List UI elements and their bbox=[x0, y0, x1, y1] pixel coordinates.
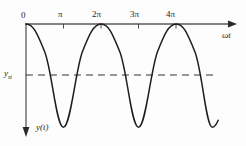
static-deflection-subscript: st bbox=[8, 74, 12, 80]
vibration-response-figure: 0 π 2π 3π 4π ωt yst y(t) bbox=[0, 0, 246, 146]
y-axis-arrowhead bbox=[23, 127, 30, 137]
static-deflection-label: yst bbox=[4, 69, 12, 80]
x-axis-label-omega-t: ωt bbox=[222, 31, 231, 40]
x-tick-label-pi: π bbox=[58, 10, 63, 19]
x-axis-arrowhead bbox=[228, 20, 237, 27]
x-axis-group bbox=[25, 20, 237, 28]
origin-label: 0 bbox=[21, 11, 26, 20]
x-tick-label-3pi: 3π bbox=[130, 10, 139, 19]
y-axis-group bbox=[23, 24, 30, 137]
y-axis-label-y-of-t: y(t) bbox=[36, 123, 49, 132]
x-tick-label-4pi: 4π bbox=[166, 10, 175, 19]
response-curve-path bbox=[26, 24, 218, 127]
x-tick-label-2pi: 2π bbox=[92, 10, 101, 19]
